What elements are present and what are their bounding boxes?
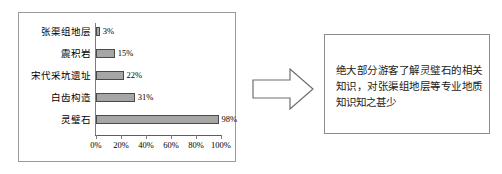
bar-chart-panel: 张渠组地层3%震积岩15%宋代采坑遗址22%白齿构造31%灵璧石98% 0%20… xyxy=(18,12,236,162)
bar-value-label: 98% xyxy=(222,115,238,124)
bar xyxy=(96,115,219,124)
x-tick-label: 80% xyxy=(188,140,204,150)
bar-value-label: 22% xyxy=(127,71,143,80)
right-arrow-icon xyxy=(252,68,314,110)
category-label: 宋代采坑遗址 xyxy=(31,69,91,82)
x-tick-label: 20% xyxy=(113,140,129,150)
category-label: 白齿构造 xyxy=(51,91,91,104)
category-label: 张渠组地层 xyxy=(41,25,91,38)
bar-row: 张渠组地层3% xyxy=(19,27,237,48)
x-tick-label: 100% xyxy=(211,140,231,150)
bar xyxy=(96,71,124,80)
bar-row: 灵璧石98% xyxy=(19,115,237,136)
bar xyxy=(96,49,115,58)
category-label: 灵璧石 xyxy=(61,113,91,126)
x-tick-label: 40% xyxy=(138,140,154,150)
x-tick-label: 60% xyxy=(163,140,179,150)
callout-text: 绝大部分游客了解灵璧石的相关知识，对张渠组地层等专业地质知识知之甚少 xyxy=(336,62,482,110)
bar-value-label: 31% xyxy=(138,93,154,102)
bar-value-label: 15% xyxy=(118,49,134,58)
bar-value-label: 3% xyxy=(103,27,114,36)
bar xyxy=(96,27,100,36)
bar-row: 震积岩15% xyxy=(19,49,237,70)
bar-row: 白齿构造31% xyxy=(19,93,237,114)
figure-root: 张渠组地层3%震积岩15%宋代采坑遗址22%白齿构造31%灵璧石98% 0%20… xyxy=(0,0,502,174)
category-label: 震积岩 xyxy=(61,47,91,60)
x-tick-label: 0% xyxy=(90,140,101,150)
bar xyxy=(96,93,135,102)
bar-row: 宋代采坑遗址22% xyxy=(19,71,237,92)
callout-box: 绝大部分游客了解灵璧石的相关知识，对张渠组地层等专业地质知识知之甚少 xyxy=(324,34,490,134)
